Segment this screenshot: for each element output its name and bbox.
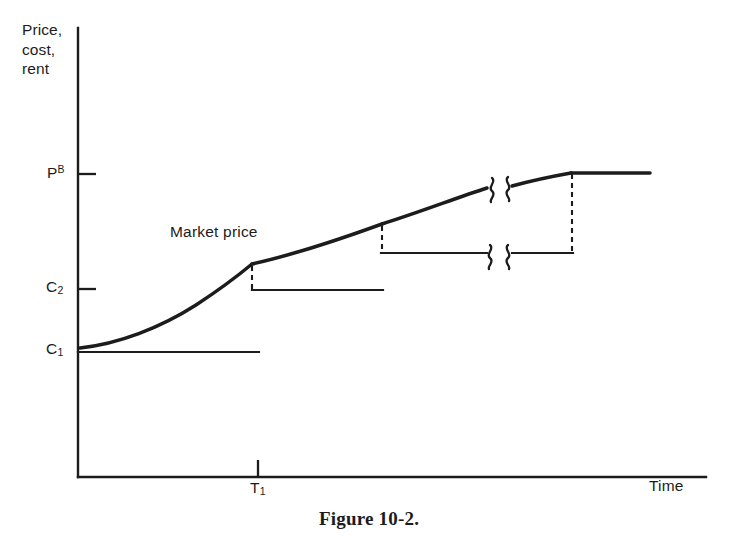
y-tick-label-c2: C2 bbox=[46, 278, 63, 296]
x-tick-label-t1: T1 bbox=[250, 479, 266, 497]
y-tick-c2-script: 2 bbox=[57, 284, 63, 296]
y-tick-label-c1: C1 bbox=[46, 340, 63, 358]
market-price-curve-segment-3 bbox=[382, 188, 487, 224]
market-price-annotation: Market price bbox=[170, 223, 258, 241]
market-price-curve-segment-4 bbox=[512, 173, 571, 186]
y-axis-label: Price, cost, rent bbox=[22, 20, 62, 79]
y-axis-label-line-3: rent bbox=[22, 60, 49, 77]
break-mark-reference-icon bbox=[489, 245, 510, 269]
chart-canvas bbox=[0, 0, 738, 549]
x-tick-t1-script: 1 bbox=[260, 485, 266, 497]
market-price-curve-segment-1 bbox=[80, 264, 252, 348]
y-tick-c1-base: C bbox=[46, 340, 57, 357]
x-axis-label: Time bbox=[649, 477, 684, 495]
market-price-curve-segment-2 bbox=[252, 224, 382, 264]
y-tick-pb-base: P bbox=[47, 164, 58, 181]
break-mark-curve-icon bbox=[491, 177, 510, 202]
y-tick-c1-script: 1 bbox=[57, 346, 63, 358]
y-tick-c2-base: C bbox=[46, 278, 57, 295]
figure-10-2: Price, cost, rent PB C2 C1 T1 Time Marke… bbox=[0, 0, 738, 549]
figure-caption: Figure 10-2. bbox=[0, 508, 738, 530]
x-tick-t1-base: T bbox=[250, 479, 260, 496]
y-axis-label-line-2: cost, bbox=[22, 41, 55, 58]
y-axis-label-line-1: Price, bbox=[22, 21, 62, 38]
y-tick-label-pb: PB bbox=[47, 163, 65, 182]
y-tick-pb-script: B bbox=[58, 163, 65, 175]
